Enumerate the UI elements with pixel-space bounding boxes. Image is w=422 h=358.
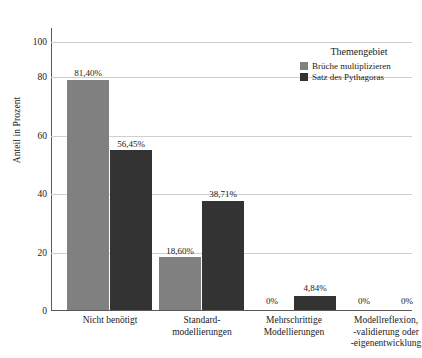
- y-tick-0: 0: [17, 306, 47, 316]
- bar-label-g2-s0: 0%: [266, 296, 278, 306]
- gridline-100: [51, 42, 412, 43]
- bar-label-g1-s0: 18,60%: [166, 246, 194, 256]
- y-tick-60: 60: [17, 131, 47, 141]
- bar-label-g3-s0: 0%: [358, 296, 370, 306]
- legend-label-1: Satz des Pythagoras: [312, 72, 384, 82]
- legend-item-0[interactable]: Brüche multiplizieren: [300, 61, 418, 71]
- legend-label-0: Brüche multiplizieren: [312, 61, 391, 71]
- y-tick-20: 20: [17, 248, 47, 258]
- x-axis-line: [51, 310, 412, 311]
- legend-swatch-icon-0: [300, 62, 308, 70]
- bar-g2-s1: [294, 296, 336, 310]
- legend-item-1[interactable]: Satz des Pythagoras: [300, 72, 418, 82]
- bar-label-g0-s1: 56,45%: [117, 139, 145, 149]
- bar-label-g0-s0: 81,40%: [74, 68, 102, 78]
- bar-chart: Anteil in Prozent 0 20 40 60 80 100 81,4…: [0, 0, 422, 358]
- bar-label-g1-s1: 38,71%: [209, 189, 237, 199]
- bar-label-g3-s1: 0%: [401, 296, 413, 306]
- y-tick-80: 80: [17, 72, 47, 82]
- y-tick-100: 100: [17, 37, 47, 47]
- bar-g1-s0: [159, 257, 201, 310]
- legend-title: Themengebiet: [300, 46, 418, 57]
- legend: Themengebiet Brüche multiplizieren Satz …: [300, 46, 418, 83]
- legend-swatch-icon-1: [300, 73, 308, 81]
- bar-g0-s0: [67, 80, 109, 310]
- y-tick-40: 40: [17, 189, 47, 199]
- bar-g0-s1: [110, 150, 152, 310]
- bar-g1-s1: [202, 201, 244, 311]
- bar-label-g2-s1: 4,84%: [303, 283, 326, 293]
- x-category-label-3: Modellreflexion, -validierung oder -eige…: [326, 315, 422, 350]
- y-axis-tick-labels: 0 20 40 60 80 100: [13, 28, 47, 311]
